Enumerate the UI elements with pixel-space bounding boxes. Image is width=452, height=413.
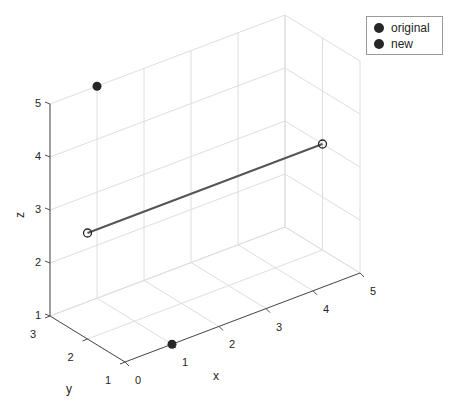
legend-item-new: new [367,36,413,52]
grid-line [88,250,323,339]
axes [45,102,364,366]
y-tick-label: 1 [105,374,111,386]
x-tick [219,326,223,330]
legend-label: original [391,21,430,35]
z-tick-label: 1 [35,309,41,321]
z-tick-label: 3 [35,203,41,215]
z-tick-label: 5 [35,97,41,109]
x-tick-label: 3 [276,321,282,333]
grid-line [50,174,285,263]
data-series [84,82,327,349]
z-tick [45,208,50,210]
y-tick-label: 3 [30,328,36,340]
x-axis [125,273,360,362]
z-tick-label: 2 [35,256,41,268]
z-tick [45,261,50,263]
z-tick-label: 4 [35,150,41,162]
grid-line [50,15,285,104]
y-tick [83,339,88,341]
filled-circle-marker [168,340,177,349]
y-tick-label: 2 [67,351,73,363]
x-tick-label: 2 [229,338,235,350]
grid-line [50,68,285,157]
x-axis-label: x [213,369,219,383]
x-tick-label: 5 [370,285,376,297]
segment-line [88,144,323,233]
legend-item-original: original [367,20,430,36]
filled-circle-icon [374,23,384,33]
y-axis-label: y [66,382,72,396]
x-tick-label: 4 [323,303,329,315]
x-tick [125,362,129,366]
y-tick [120,362,125,364]
x-tick-label: 0 [135,374,141,386]
plot-3d: 01234512312345 x y z [0,0,452,413]
z-axis-label: z [13,212,27,218]
x-tick-label: 1 [182,356,188,368]
z-tick [45,314,50,316]
grid-line [50,121,285,210]
grid-line [50,227,285,316]
z-tick [45,102,50,104]
x-tick [360,273,364,277]
filled-circle-marker [93,82,102,91]
z-tick [45,155,50,157]
legend-label: new [391,37,413,51]
legend: original new [366,16,443,55]
x-tick [266,309,270,313]
filled-circle-icon [374,39,384,49]
y-tick [45,316,50,318]
x-tick [313,291,317,295]
